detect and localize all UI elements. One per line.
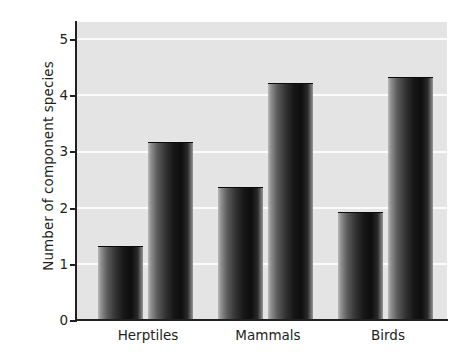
x-axis-label-birds: Birds bbox=[348, 327, 428, 343]
y-tick-label-1: 1 bbox=[46, 258, 68, 272]
y-tick-label-3: 3 bbox=[46, 145, 68, 159]
gridline-5 bbox=[77, 38, 447, 40]
bar-chart: Number of component species 5 4 3 2 1 0 … bbox=[0, 0, 466, 359]
y-axis-tick-labels: 5 4 3 2 1 0 bbox=[44, 0, 68, 359]
bar-herptiles-2 bbox=[148, 142, 193, 320]
bar-birds-2 bbox=[388, 77, 433, 320]
bar-mammals-1 bbox=[218, 187, 263, 320]
y-tick-label-2: 2 bbox=[46, 202, 68, 216]
bar-birds-1 bbox=[338, 212, 383, 320]
y-tick-label-4: 4 bbox=[46, 89, 68, 103]
y-tick-label-0: 0 bbox=[46, 314, 68, 328]
y-tick-label-5: 5 bbox=[46, 33, 68, 47]
y-axis-line bbox=[75, 21, 77, 321]
bar-herptiles-1 bbox=[98, 246, 143, 320]
bar-mammals-2 bbox=[268, 83, 313, 320]
x-axis-label-mammals: Mammals bbox=[228, 327, 308, 343]
plot-area bbox=[77, 22, 447, 320]
x-axis-label-herptiles: Herptiles bbox=[108, 327, 188, 343]
x-axis-line bbox=[75, 319, 448, 321]
